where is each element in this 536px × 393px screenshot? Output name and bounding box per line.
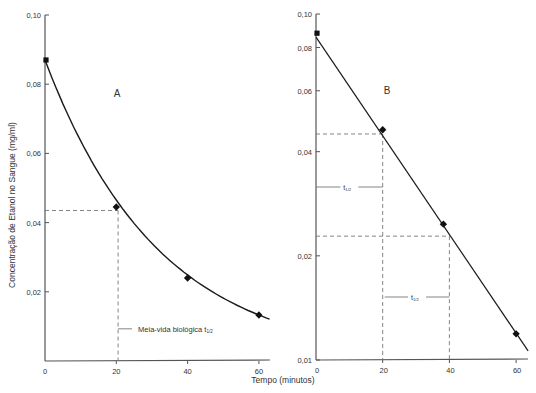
- panel-b: 0,010,020,040,060,080,100204060t1/2t1/2B: [297, 10, 528, 375]
- data-point-marker: [43, 57, 48, 62]
- x-axis: [316, 359, 528, 360]
- x-tick-label: 0: [315, 366, 319, 375]
- y-tick-label: 0,04: [297, 148, 312, 157]
- decay-curve: [45, 60, 270, 319]
- x-tick-label: 40: [183, 367, 191, 376]
- x-tick-label: 60: [513, 366, 521, 375]
- panel-label-a: A: [114, 88, 121, 99]
- y-tick-label: 0,04: [26, 219, 41, 228]
- log-fit-line: [316, 37, 528, 351]
- chart-canvas: Concentração de Etanol no Sangue (mg/ml)…: [0, 0, 536, 393]
- x-tick-label: 20: [380, 366, 388, 375]
- y-tick-label: 0,02: [297, 252, 312, 261]
- y-tick-label: 0,06: [297, 87, 312, 96]
- y-tick-label: 0,02: [26, 288, 41, 297]
- x-tick-label: 0: [43, 367, 47, 376]
- x-tick-label: 40: [446, 366, 454, 375]
- y-axis-label: Concentração de Etanol no Sangue (mg/ml): [7, 122, 17, 288]
- x-tick-label: 20: [112, 367, 120, 376]
- y-tick-label: 0,10: [297, 10, 312, 19]
- half-life-label: t1/2: [411, 294, 419, 303]
- data-point-marker: [255, 311, 262, 318]
- panel-label-b: B: [384, 85, 391, 96]
- x-axis: [45, 360, 270, 361]
- x-tick-label: 60: [255, 367, 263, 376]
- half-life-label: t1/2: [343, 184, 351, 193]
- y-tick-label: 0,01: [297, 356, 312, 365]
- panel-a: 0,020,040,060,080,100204060Meia-vida bio…: [26, 11, 270, 376]
- y-tick-label: 0,10: [26, 11, 41, 20]
- y-tick-label: 0,08: [26, 80, 41, 89]
- y-tick-label: 0,06: [26, 149, 41, 158]
- x-axis-label: Tempo (minutos): [251, 375, 314, 385]
- figure: Concentração de Etanol no Sangue (mg/ml)…: [0, 0, 536, 393]
- y-tick-label: 0,08: [297, 44, 312, 53]
- data-point-marker: [184, 274, 191, 281]
- half-life-label: Meia-vida biológica t1/2: [138, 325, 213, 335]
- data-point-marker: [314, 31, 319, 36]
